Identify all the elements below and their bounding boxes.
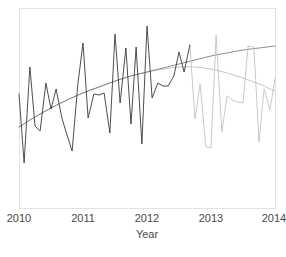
xtick-label-2012: 2012 bbox=[135, 212, 159, 224]
time-series-chart: 2010 2011 2012 2013 2014 Year bbox=[0, 0, 286, 257]
xtick-label-2010: 2010 bbox=[7, 212, 31, 224]
xtick-label-2011: 2011 bbox=[71, 212, 95, 224]
xtick-label-2013: 2013 bbox=[199, 212, 223, 224]
x-axis-title: Year bbox=[136, 228, 159, 240]
chart-container: 2010 2011 2012 2013 2014 Year bbox=[0, 0, 286, 257]
xtick-label-2014: 2014 bbox=[262, 212, 286, 224]
